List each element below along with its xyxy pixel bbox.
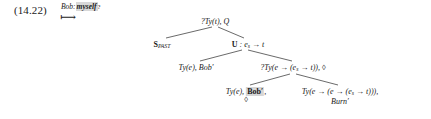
example-number: (14.22)	[14, 4, 47, 16]
gloss-highlighted-word: myself	[76, 2, 98, 11]
utterance-gloss: Bob:myself?	[61, 3, 100, 11]
pointer-diamond-icon: ◊	[322, 63, 326, 72]
tree-node-burn: Ty(e → (e → (es → t))), Burn′	[302, 87, 379, 106]
tree-node-ty-e-bob-highlighted-comma: ,	[264, 87, 266, 96]
branch-root-right	[218, 27, 244, 38]
tree-node-root: ?Ty(t), Q	[201, 17, 230, 26]
tree-node-requirement-functor: ?Ty(e → (es → t)), ◊	[260, 63, 325, 73]
example-figure: (14.22) Bob:myself? ⟼ ?Ty(t), Q SPAST U …	[0, 0, 431, 119]
tree-node-ty-e-bob: Ty(e), Bob′	[179, 63, 214, 72]
gloss-question-mark: ?	[98, 3, 101, 10]
tree-node-root-label: ?Ty(t), Q	[201, 17, 230, 26]
tree-node-s-past-subscript: PAST	[158, 43, 170, 49]
tree-node-ty-e-bob-highlighted-formula: Bob′	[246, 87, 264, 96]
branch-root-left	[166, 27, 212, 38]
tree-node-burn-prefix: Ty(e → (e → (e	[302, 87, 352, 96]
tree-node-u-arrow: →	[250, 40, 262, 49]
tree-node-requirement-functor-prefix: ?Ty(e → (e	[260, 63, 296, 72]
tree-node-burn-suffix: → t))),	[354, 87, 378, 96]
tree-node-ty-e-bob-highlighted: Ty(e), Bob′, ◊	[226, 87, 266, 105]
branch-lower-right	[296, 74, 338, 85]
tree-node-ty-e-bob-type: Ty(e),	[179, 63, 197, 72]
pointer-diamond-icon-lower: ◊	[226, 96, 266, 105]
tree-node-u: U : es → t	[232, 40, 265, 50]
tree-node-s-past: SPAST	[154, 40, 171, 50]
branch-lower-left	[250, 74, 290, 85]
tree-node-ty-e-bob-formula: Bob′	[199, 63, 214, 72]
tree-node-burn-formula: Burn′	[302, 97, 379, 106]
branch-u-left	[200, 50, 242, 61]
tree-node-ty-e-bob-highlighted-type: Ty(e),	[226, 87, 244, 96]
tree-node-requirement-functor-suffix: → t)),	[298, 63, 320, 72]
tree-node-u-result: t	[262, 40, 264, 49]
mapsto-arrow-icon: ⟼	[60, 12, 76, 23]
gloss-speaker: Bob:	[61, 2, 76, 11]
branch-u-right	[248, 50, 292, 61]
